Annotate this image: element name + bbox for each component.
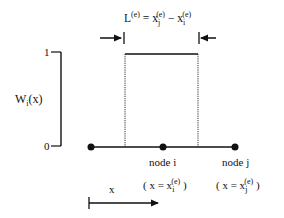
y-axis-label: Wi(x) [15, 92, 43, 108]
node-j-label: node j [222, 156, 249, 168]
y-tick-label-one: 1 [44, 46, 50, 58]
length-annotation: L(e) = xj(e) − xi(e) [100, 10, 216, 44]
node-j-position: ( x = xj(e) ) [216, 177, 260, 194]
y-tick-label-zero: 0 [44, 140, 50, 152]
length-formula: L(e) = xj(e) − xi(e) [124, 10, 191, 27]
node-left [88, 144, 95, 151]
node-i [160, 144, 167, 151]
element-baseline [88, 144, 239, 151]
node-i-label: node i [149, 156, 176, 168]
y-axis-bracket: 1 0 Wi(x) [15, 46, 61, 152]
shape-function-diagram: L(e) = xj(e) − xi(e) 1 0 Wi(x) node i no… [0, 0, 284, 218]
node-i-position: ( x = xi(e) ) [143, 177, 187, 194]
node-j [232, 144, 239, 151]
shape-function-box [125, 54, 198, 147]
x-arrow-label: x [109, 183, 115, 195]
